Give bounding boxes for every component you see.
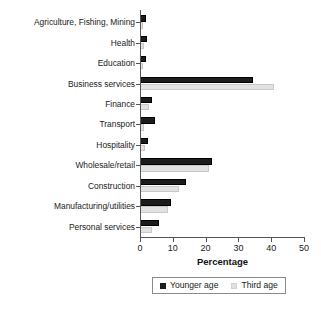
chart-category-row: Construction	[0, 176, 321, 196]
x-axis-title: Percentage	[140, 256, 305, 267]
x-axis-tick-label: 20	[201, 243, 211, 254]
bar-third-age	[140, 206, 168, 212]
bar-group	[140, 176, 310, 196]
bar-third-age	[140, 165, 209, 171]
x-axis-tick-mark	[173, 238, 174, 242]
x-axis-tick-mark	[304, 238, 305, 242]
y-axis-tick-label: Manufacturing/utilities	[54, 201, 135, 211]
chart-legend: Younger age Third age	[152, 277, 286, 294]
bar-group	[140, 53, 310, 73]
bar-younger-age	[140, 220, 159, 226]
bar-younger-age	[140, 179, 186, 185]
legend-item-third-age: Third age	[231, 280, 277, 291]
chart-category-row: Hospitality	[0, 135, 321, 155]
chart-category-row: Personal services	[0, 217, 321, 237]
bar-younger-age	[140, 117, 155, 123]
bar-group	[140, 196, 310, 216]
x-axis-tick-mark	[140, 238, 141, 242]
y-axis-tick-label: Agriculture, Fishing, Mining	[34, 17, 135, 27]
y-axis-tick-label: Education	[98, 58, 135, 68]
plot-area: Agriculture, Fishing, MiningHealthEducat…	[0, 0, 321, 250]
y-axis-line	[140, 10, 141, 238]
y-axis-tick-label: Construction	[88, 181, 135, 191]
bar-third-age	[140, 84, 274, 90]
y-axis-tick-label: Transport	[99, 119, 135, 129]
bar-group	[140, 73, 310, 93]
legend-swatch-icon-third-age	[231, 283, 237, 289]
bar-third-age	[140, 186, 179, 192]
bar-younger-age	[140, 158, 212, 164]
chart-category-row: Health	[0, 32, 321, 52]
x-axis-tick-label: 30	[233, 243, 243, 254]
y-axis-tick-label: Wholesale/retail	[75, 160, 135, 170]
bar-group	[140, 12, 310, 32]
legend-swatch-icon-younger-age	[160, 283, 166, 289]
bar-group	[140, 114, 310, 134]
y-axis-tick-label: Business services	[68, 79, 135, 89]
x-axis-tick-label: 10	[168, 243, 178, 254]
x-axis-tick-mark	[271, 238, 272, 242]
x-axis-tick-label: 50	[299, 243, 309, 254]
chart-category-row: Wholesale/retail	[0, 155, 321, 175]
legend-label-third-age: Third age	[241, 280, 277, 291]
bar-younger-age	[140, 199, 171, 205]
legend-item-younger-age: Younger age	[160, 280, 218, 291]
bar-group	[140, 217, 310, 237]
bar-younger-age	[140, 138, 148, 144]
chart-category-row: Manufacturing/utilities	[0, 196, 321, 216]
x-axis-tick-label: 0	[137, 243, 142, 254]
bar-group	[140, 94, 310, 114]
bar-younger-age	[140, 97, 152, 103]
bar-group	[140, 32, 310, 52]
x-axis-tick-mark	[238, 238, 239, 242]
bar-group	[140, 155, 310, 175]
horizontal-bar-chart: Agriculture, Fishing, MiningHealthEducat…	[0, 0, 321, 311]
chart-category-row: Education	[0, 53, 321, 73]
chart-category-row: Finance	[0, 94, 321, 114]
y-axis-tick-label: Personal services	[69, 222, 135, 232]
y-axis-tick-label: Finance	[105, 99, 135, 109]
bar-third-age	[140, 104, 149, 110]
x-axis-tick-mark	[206, 238, 207, 242]
chart-category-row: Agriculture, Fishing, Mining	[0, 12, 321, 32]
bar-group	[140, 135, 310, 155]
y-axis-tick-label: Health	[111, 38, 135, 48]
y-axis-tick-label: Hospitality	[96, 140, 135, 150]
bar-younger-age	[140, 77, 253, 83]
x-axis-line	[140, 237, 305, 238]
chart-category-row: Business services	[0, 73, 321, 93]
legend-label-younger-age: Younger age	[170, 280, 218, 291]
chart-category-row: Transport	[0, 114, 321, 134]
bar-third-age	[140, 227, 152, 233]
x-axis-tick-label: 40	[266, 243, 276, 254]
